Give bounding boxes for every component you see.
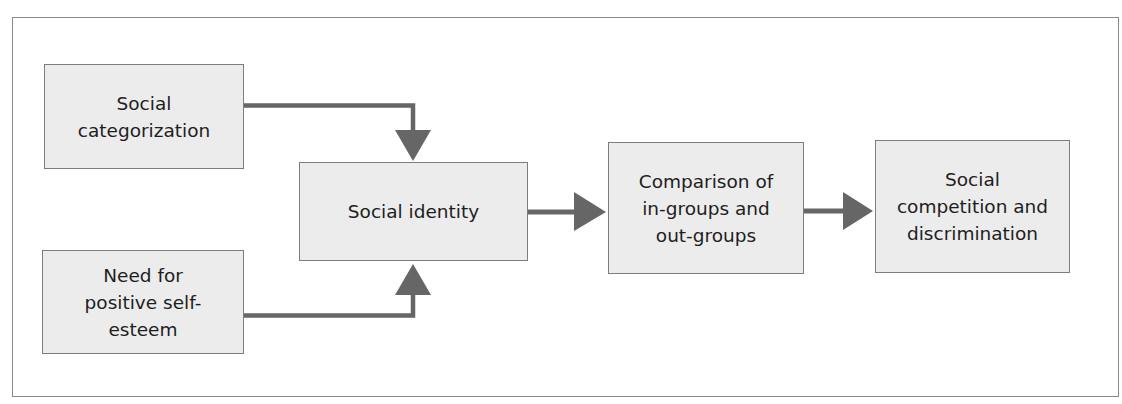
arrow-identity-to-comparison	[528, 192, 606, 231]
arrows-layer	[0, 0, 1122, 404]
arrow-comparison-to-competition	[804, 192, 873, 230]
arrow-categorization-to-identity	[244, 106, 431, 162]
arrow-self-esteem-to-identity	[244, 264, 431, 316]
